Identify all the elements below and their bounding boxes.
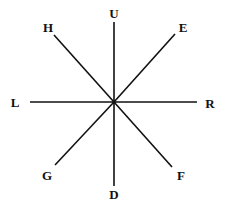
ray-upper-left bbox=[54, 35, 114, 102]
label-left: L bbox=[11, 95, 20, 110]
label-down: D bbox=[109, 187, 118, 202]
label-up: U bbox=[109, 6, 119, 21]
label-lower-left: G bbox=[42, 168, 52, 183]
direction-star-svg: U D L R H E G F bbox=[0, 0, 225, 208]
label-upper-right: E bbox=[179, 20, 188, 35]
center-point bbox=[113, 101, 116, 104]
label-right: R bbox=[205, 96, 215, 111]
label-upper-left: H bbox=[43, 20, 53, 35]
ray-lower-right bbox=[114, 102, 172, 167]
label-lower-right: F bbox=[177, 168, 185, 183]
ray-upper-right bbox=[114, 34, 175, 102]
ray-lower-left bbox=[55, 102, 114, 165]
direction-diagram: U D L R H E G F bbox=[0, 0, 225, 208]
